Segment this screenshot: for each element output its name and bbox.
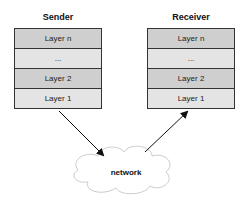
sender-to-network-arrow <box>59 111 103 155</box>
network-to-receiver-arrow <box>145 112 187 152</box>
network-label: network <box>104 168 148 177</box>
